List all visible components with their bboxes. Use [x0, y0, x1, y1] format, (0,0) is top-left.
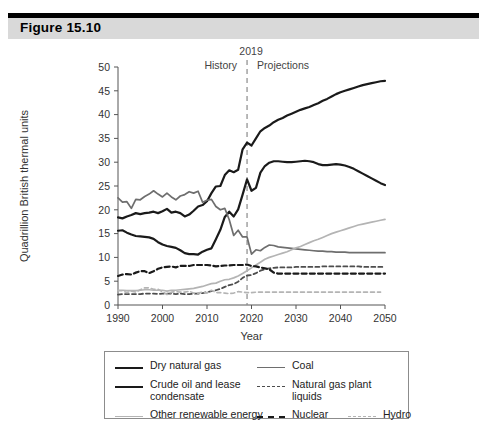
- legend-item-crude-oil-and-lease-condensate[interactable]: Crude oil and lease condensate: [115, 379, 240, 402]
- divider-year-label: 2019: [239, 45, 263, 57]
- legend-label: Other renewable energy: [150, 409, 263, 421]
- legend-label: Hydro: [383, 409, 411, 421]
- y-tick-label: 35: [98, 132, 110, 144]
- x-axis-title: Year: [240, 330, 263, 342]
- x-tick-label: 2010: [195, 312, 219, 324]
- x-tick-label: 2020: [240, 312, 264, 324]
- legend-swatch-icon: [257, 362, 285, 374]
- legend-swatch-icon: [348, 411, 376, 423]
- series-group: [118, 81, 385, 295]
- legend-swatch-icon: [115, 381, 143, 393]
- legend-item-hydro[interactable]: Hydro: [348, 409, 411, 423]
- x-tick-label: 2040: [329, 312, 353, 324]
- chart-area: 2019HistoryProjections 05101520253035404…: [0, 42, 487, 342]
- legend-swatch-icon: [115, 362, 143, 374]
- series-line-other-renewable-energy: [118, 219, 385, 291]
- series-line-coal: [118, 191, 385, 254]
- x-tick-label: 2000: [151, 312, 175, 324]
- y-tick-label: 20: [98, 204, 110, 216]
- legend-label: Natural gas plant liquids: [292, 379, 371, 402]
- legend-swatch-icon: [257, 411, 285, 423]
- y-axis-title: Quadrillion British thermal units: [18, 109, 30, 262]
- legend-label: Coal: [292, 360, 314, 372]
- y-tick-label: 0: [104, 299, 110, 311]
- history-label: History: [204, 59, 237, 71]
- y-tick-label: 10: [98, 251, 110, 263]
- y-tick-label: 50: [98, 61, 110, 73]
- figure-label: Figure 15.10: [20, 20, 101, 35]
- legend-label: Dry natural gas: [150, 360, 221, 372]
- y-tick-label: 40: [98, 108, 110, 120]
- chart-legend: Dry natural gasCrude oil and lease conde…: [104, 351, 409, 419]
- y-tick-label: 45: [98, 85, 110, 97]
- x-tick-label: 2030: [284, 312, 308, 324]
- legend-label: Nuclear: [292, 409, 328, 421]
- legend-label: Crude oil and lease condensate: [150, 379, 240, 402]
- legend-swatch-icon: [115, 411, 143, 423]
- line-chart-svg: 2019HistoryProjections 05101520253035404…: [0, 42, 487, 342]
- series-line-crude-oil-and-lease-condensate: [118, 161, 385, 255]
- series-line-dry-natural-gas: [118, 81, 385, 219]
- legend-item-coal[interactable]: Coal: [257, 360, 314, 374]
- legend-swatch-icon: [257, 381, 285, 393]
- legend-item-natural-gas-plant-liquids[interactable]: Natural gas plant liquids: [257, 379, 371, 402]
- y-tick-label: 30: [98, 156, 110, 168]
- x-tick-label: 2050: [373, 312, 397, 324]
- legend-item-dry-natural-gas[interactable]: Dry natural gas: [115, 360, 221, 374]
- x-tick-label: 1990: [106, 312, 130, 324]
- y-tick-label: 5: [104, 275, 110, 287]
- legend-item-nuclear[interactable]: Nuclear: [257, 409, 328, 423]
- y-tick-label: 25: [98, 180, 110, 192]
- figure-container: Figure 15.10 2019HistoryProjections 0510…: [0, 0, 487, 431]
- y-tick-label: 15: [98, 227, 110, 239]
- legend-item-other-renewable-energy[interactable]: Other renewable energy: [115, 409, 263, 423]
- projections-label: Projections: [257, 59, 309, 71]
